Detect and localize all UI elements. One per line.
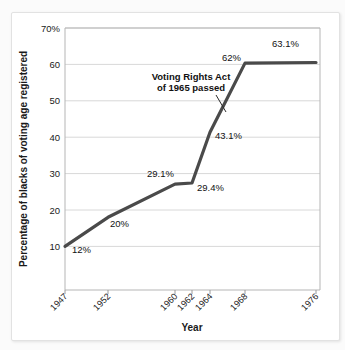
point-label-1947: 12%	[72, 244, 92, 255]
y-tick-70: 70%	[41, 23, 61, 34]
point-label-1976: 63.1%	[272, 38, 299, 49]
gridlines	[65, 28, 320, 246]
plot-frame	[65, 28, 320, 290]
x-axis-title: Year	[181, 322, 202, 333]
y-tick-10: 10	[49, 241, 60, 252]
y-tick-30: 30	[49, 168, 60, 179]
line-chart-figure: 70% 60 50 40 30 20 10 Percentage of blac…	[0, 0, 345, 350]
x-tick-1968: 1968	[228, 291, 249, 312]
x-tick-1947: 1947	[48, 291, 69, 312]
y-tick-20: 20	[49, 205, 60, 216]
y-axis-title: Percentage of blacks of voting age regis…	[18, 51, 29, 267]
point-label-1962: 29.4%	[197, 182, 224, 193]
point-label-1952: 20%	[110, 218, 130, 229]
y-tick-50: 50	[49, 95, 60, 106]
annotation-line-1: Voting Rights Act	[152, 71, 231, 82]
x-tick-1952: 1952	[91, 291, 112, 312]
voting-rights-act-annotation: Voting Rights Act of 1965 passed	[152, 71, 231, 112]
chart-svg: 70% 60 50 40 30 20 10 Percentage of blac…	[0, 0, 345, 350]
y-tick-labels: 70% 60 50 40 30 20 10	[41, 23, 61, 252]
point-label-1960: 29.1%	[147, 168, 174, 179]
y-tick-40: 40	[49, 132, 60, 143]
x-tick-1960: 1960	[158, 291, 179, 312]
x-tick-1976: 1976	[299, 291, 320, 312]
x-tick-1962: 1962	[175, 291, 196, 312]
x-tick-labels: 1947 1952 1960 1962 1964 1968 1976	[48, 291, 320, 312]
annotation-line-2: of 1965 passed	[157, 82, 225, 93]
point-label-1968: 62%	[222, 52, 242, 63]
y-tick-60: 60	[49, 59, 60, 70]
x-tick-1964: 1964	[193, 291, 214, 312]
point-label-1964: 43.1%	[215, 130, 242, 141]
